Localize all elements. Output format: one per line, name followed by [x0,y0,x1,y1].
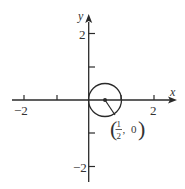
coordinate-diagram: x y −2 2 2 −2 ( 1 2 , 0 ) [0,0,185,189]
center-label-separator: , [123,123,126,135]
x-tick-label-2: 2 [150,103,157,118]
center-label-close-paren: ) [138,116,145,141]
center-label-numerator: 1 [117,119,122,129]
x-axis-label: x [169,85,176,99]
y-axis-label: y [77,9,84,23]
center-label-denominator: 2 [117,131,122,141]
y-tick-label-2: 2 [79,27,86,42]
x-tick-label-neg2: −2 [14,103,28,118]
center-label-y: 0 [131,123,137,135]
y-tick-label-neg2: −2 [73,160,87,175]
y-axis-arrow-icon [85,14,92,23]
radius-line [105,100,115,115]
center-label: ( 1 2 , 0 ) [110,116,145,141]
